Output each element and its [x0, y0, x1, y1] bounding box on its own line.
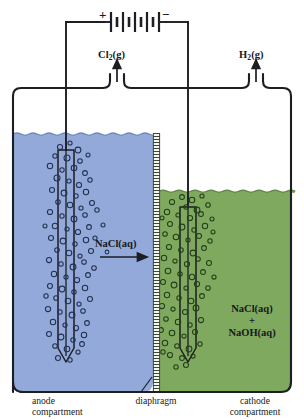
cathode-caption-line-2: compartment	[212, 407, 298, 418]
hydrogen-gas-label-state: (g)	[251, 49, 264, 60]
chlorine-gas-label: Cl2(g)	[98, 49, 125, 62]
cathode-solution-label: NaCl(aq) + NaOH(aq)	[214, 303, 290, 338]
diaphragm	[153, 133, 160, 392]
cathode-solution-line-3: NaOH(aq)	[214, 327, 290, 339]
diagram-canvas: + − Cl2(g) H2(g) NaCl(aq) NaCl(aq) + NaO…	[0, 0, 304, 420]
cathode-solution-line-2: +	[214, 315, 290, 327]
brine-flow-label: NaCl(aq)	[95, 238, 136, 250]
diaphragm-caption: diaphragm	[113, 396, 199, 407]
cathode-solution-line-1: NaCl(aq)	[214, 303, 290, 315]
anode-caption-line-2: compartment	[32, 407, 124, 418]
diaphragm-caption-line-1: diaphragm	[113, 396, 199, 407]
chlorine-gas-label-text: Cl	[98, 49, 109, 60]
chlorine-arrow	[113, 60, 121, 82]
cathode-compartment-caption: cathode compartment	[212, 396, 298, 417]
hydrogen-arrow	[252, 60, 260, 82]
battery-negative-terminal-label: −	[162, 8, 169, 23]
anode-solution-fill	[13, 133, 157, 392]
cell-schematic	[0, 0, 304, 420]
battery-symbol	[111, 12, 159, 32]
chlorine-gas-label-state: (g)	[113, 49, 126, 60]
hydrogen-gas-label: H2(g)	[239, 49, 264, 62]
battery-positive-terminal-label: +	[99, 8, 106, 23]
anode-compartment-caption: anode compartment	[32, 396, 124, 417]
